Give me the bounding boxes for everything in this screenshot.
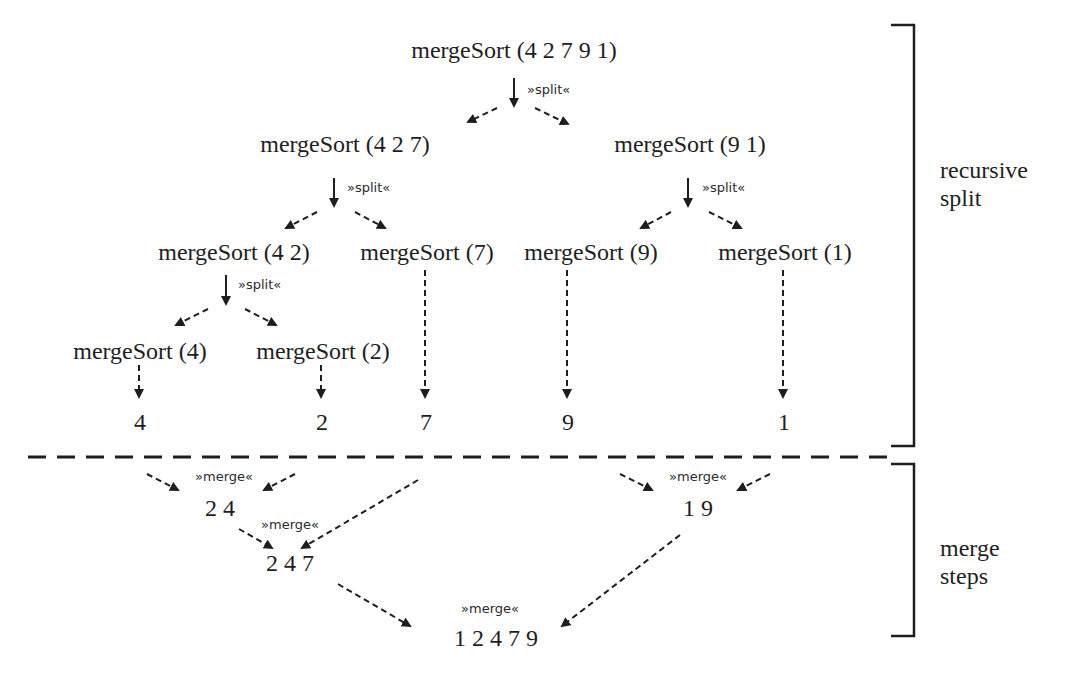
node-2: mergeSort (2)	[256, 339, 390, 363]
recursive-split-bracket	[891, 25, 914, 446]
merge-label-final: »merge«	[461, 602, 519, 615]
split-label-42: »split«	[238, 278, 281, 291]
merge-sort-diagram: mergeSort (4 2 7 9 1) »split« mergeSort …	[0, 0, 1065, 680]
leaf-1: 1	[778, 410, 790, 434]
split-label-root: »split«	[527, 83, 570, 96]
node-427: mergeSort (4 2 7)	[260, 132, 430, 156]
node-9: mergeSort (9)	[524, 240, 658, 264]
node-42: mergeSort (4 2)	[158, 240, 310, 264]
merge-label-24: »merge«	[195, 470, 253, 483]
merge-result-19: 1 9	[683, 496, 713, 520]
label-recursive-split: recursive split	[940, 156, 1028, 212]
merge-label-247: »merge«	[261, 518, 319, 531]
node-1: mergeSort (1)	[718, 240, 852, 264]
merge-result-247: 2 4 7	[266, 551, 314, 575]
leaf-2: 2	[316, 410, 328, 434]
label-merge-steps: merge steps	[940, 534, 1000, 590]
node-91: mergeSort (9 1)	[614, 132, 766, 156]
merge-result-24: 2 4	[205, 496, 235, 520]
leaf-7: 7	[420, 410, 432, 434]
node-4: mergeSort (4)	[73, 339, 207, 363]
leaf-9: 9	[562, 410, 574, 434]
merge-steps-bracket	[891, 464, 914, 636]
node-root: mergeSort (4 2 7 9 1)	[411, 38, 617, 62]
split-label-91: »split«	[702, 181, 745, 194]
merge-label-19: »merge«	[669, 470, 727, 483]
node-7: mergeSort (7)	[360, 240, 494, 264]
leaf-4: 4	[134, 410, 146, 434]
merge-result-final: 1 2 4 7 9	[454, 626, 538, 650]
split-label-427: »split«	[347, 181, 390, 194]
